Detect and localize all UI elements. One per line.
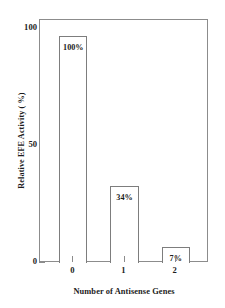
bar-value-label: 34% bbox=[111, 194, 137, 202]
x-axis-title: Number of Antisense Genes bbox=[39, 287, 209, 296]
plot-area: 100%34%7% bbox=[39, 19, 208, 262]
chart-figure: Relative EFE Activity ( %) 0 50 100 100%… bbox=[0, 0, 225, 308]
y-tick-label: 0 bbox=[3, 257, 37, 266]
bar: 34% bbox=[110, 186, 138, 263]
bar-value-label: 7% bbox=[163, 255, 189, 263]
x-tick-label: 2 bbox=[163, 266, 187, 275]
x-tick-label: 1 bbox=[112, 266, 136, 275]
x-tick-mark bbox=[175, 256, 176, 262]
x-tick-mark bbox=[124, 256, 125, 262]
x-tick-mark bbox=[72, 256, 73, 262]
bar: 100% bbox=[59, 36, 87, 263]
y-tick-label: 50 bbox=[3, 140, 37, 149]
y-tick-mark bbox=[39, 262, 45, 263]
bar-value-label: 100% bbox=[60, 44, 86, 52]
y-tick-label: 100 bbox=[3, 23, 37, 32]
x-tick-label: 0 bbox=[60, 266, 84, 275]
bar: 7% bbox=[162, 247, 190, 263]
